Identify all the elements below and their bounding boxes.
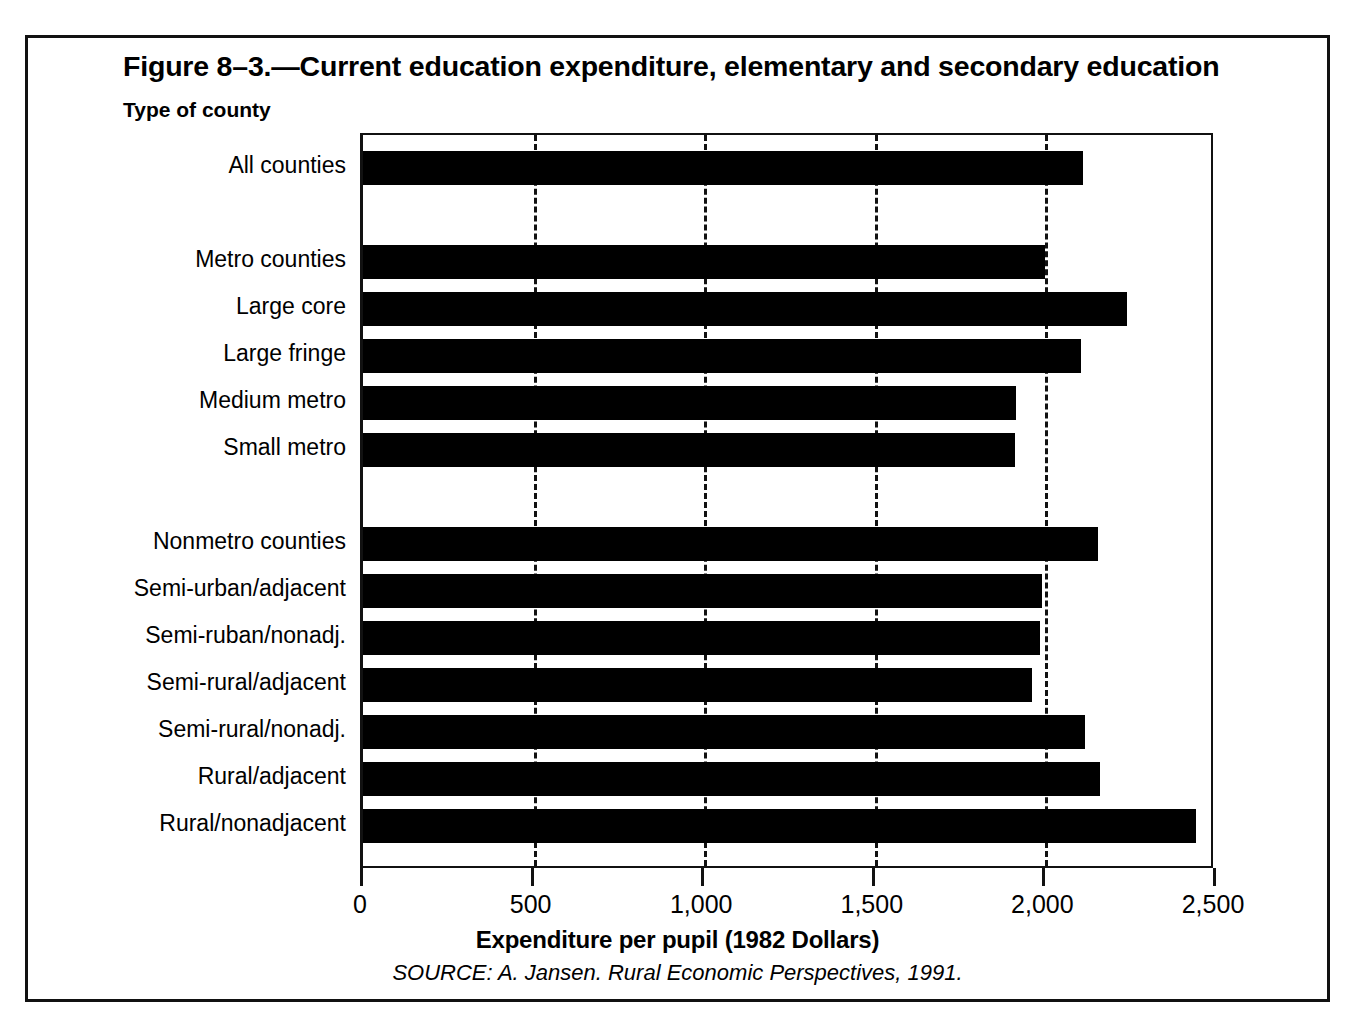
bar (363, 574, 1042, 608)
category-label: Large core (236, 295, 346, 318)
x-tick (1042, 868, 1045, 886)
category-label: Semi-rural/nonadj. (158, 718, 346, 741)
category-label: Semi-rural/adjacent (147, 671, 346, 694)
bar (363, 433, 1015, 467)
figure-frame: Figure 8–3.—Current education expenditur… (25, 35, 1330, 1002)
category-label: Rural/nonadjacent (159, 812, 346, 835)
bar (363, 762, 1100, 796)
plot-area (360, 133, 1213, 868)
category-label: Rural/adjacent (198, 765, 346, 788)
x-tick-label: 0 (353, 890, 367, 919)
x-tick (531, 868, 534, 886)
category-label-list: All countiesMetro countiesLarge coreLarg… (28, 133, 346, 868)
bar (363, 245, 1045, 279)
x-tick-label: 1,500 (841, 890, 904, 919)
category-label: Metro counties (195, 248, 346, 271)
category-label: Nonmetro counties (153, 530, 346, 553)
x-tick (701, 868, 704, 886)
category-label: All counties (228, 154, 346, 177)
bar (363, 151, 1083, 185)
x-axis-title: Expenditure per pupil (1982 Dollars) (28, 926, 1327, 954)
bar (363, 292, 1127, 326)
x-tick (1213, 868, 1216, 886)
x-tick-label: 2,000 (1011, 890, 1074, 919)
x-tick (872, 868, 875, 886)
bar (363, 339, 1081, 373)
category-label: Semi-urban/adjacent (134, 577, 346, 600)
bar (363, 715, 1085, 749)
x-tick-label: 2,500 (1182, 890, 1245, 919)
x-tick (360, 868, 363, 886)
figure-title: Figure 8–3.—Current education expenditur… (123, 50, 1219, 83)
gridline-2000 (1045, 135, 1048, 866)
category-axis-title: Type of county (123, 98, 271, 122)
x-tick-label: 1,000 (670, 890, 733, 919)
bar (363, 668, 1032, 702)
bar (363, 386, 1016, 420)
bar (363, 527, 1098, 561)
bar (363, 809, 1196, 843)
bar (363, 621, 1040, 655)
source-note: SOURCE: A. Jansen. Rural Economic Perspe… (28, 960, 1327, 986)
category-label: Semi-ruban/nonadj. (145, 624, 346, 647)
category-label: Large fringe (223, 342, 346, 365)
x-tick-label: 500 (510, 890, 552, 919)
category-label: Medium metro (199, 389, 346, 412)
category-label: Small metro (223, 436, 346, 459)
